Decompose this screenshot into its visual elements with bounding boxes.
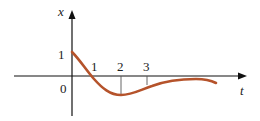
- damped-response-plot: x t 0 1 1 2 3: [0, 0, 260, 121]
- x-tick-label-3: 3: [143, 59, 150, 74]
- x-axis-arrow-icon: [238, 73, 247, 80]
- x-tick-label-1: 1: [91, 59, 98, 74]
- y-axis-label: x: [57, 4, 64, 19]
- y-axis-arrow-icon: [69, 10, 76, 19]
- origin-label: 0: [60, 81, 67, 96]
- x-tick-label-2: 2: [117, 59, 124, 74]
- y-tick-label-1: 1: [58, 47, 65, 62]
- x-axis-label: t: [240, 83, 244, 98]
